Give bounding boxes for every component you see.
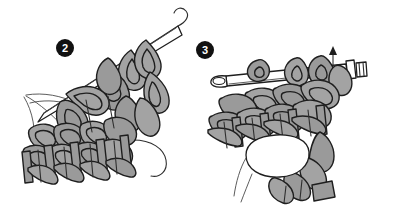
illustration-root: .yarn { fill:#a3a3a3; stroke:#1e1e1e; st…: [0, 0, 393, 219]
badge-number: 3: [202, 44, 208, 56]
hook-notch: [213, 78, 225, 85]
thumb-shape: [246, 135, 309, 177]
panel-step-3: .yarnB { fill:#a3a3a3; stroke:#1e1e1e; s…: [196, 0, 393, 219]
step-badge-2: 2: [56, 39, 74, 57]
badge-number: 2: [62, 42, 68, 54]
hook-tip: [211, 76, 227, 87]
step-badge-3: 3: [196, 41, 214, 59]
panel-step-2: .yarn { fill:#a3a3a3; stroke:#1e1e1e; st…: [0, 0, 197, 219]
